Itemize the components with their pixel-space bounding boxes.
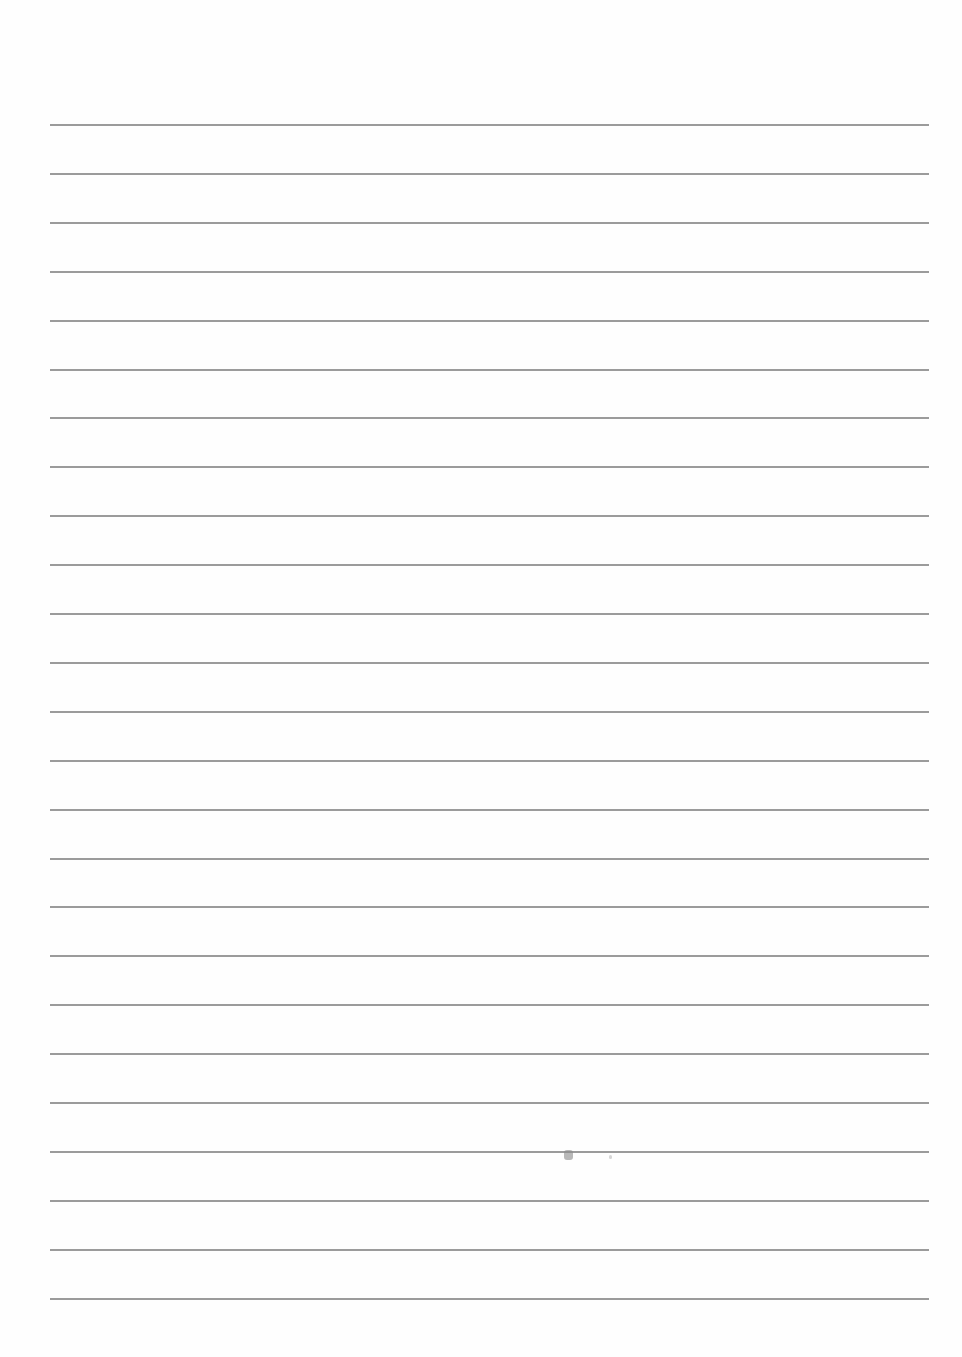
ruled-line bbox=[50, 809, 929, 811]
ruled-line bbox=[50, 417, 929, 419]
ruled-line bbox=[50, 760, 929, 762]
ruled-line bbox=[50, 906, 929, 908]
ruled-line bbox=[50, 173, 929, 175]
ruled-line bbox=[50, 1004, 929, 1006]
ruled-line bbox=[50, 1200, 929, 1202]
ruled-line bbox=[50, 662, 929, 664]
ruled-line bbox=[50, 1151, 929, 1153]
ruled-paper-page bbox=[0, 0, 962, 1357]
ruled-line bbox=[50, 955, 929, 957]
ruled-line bbox=[50, 1298, 929, 1300]
ruled-line bbox=[50, 1249, 929, 1251]
ruled-line bbox=[50, 1053, 929, 1055]
ruled-line bbox=[50, 1102, 929, 1104]
ruled-line bbox=[50, 222, 929, 224]
ruled-line bbox=[50, 320, 929, 322]
ruled-line bbox=[50, 369, 929, 371]
ruled-line bbox=[50, 711, 929, 713]
ruled-line bbox=[50, 124, 929, 126]
ruled-line bbox=[50, 858, 929, 860]
ruled-line bbox=[50, 271, 929, 273]
ruled-line bbox=[50, 466, 929, 468]
ruled-line bbox=[50, 613, 929, 615]
ruled-line bbox=[50, 515, 929, 517]
paper-speck bbox=[609, 1155, 612, 1159]
ruled-line bbox=[50, 564, 929, 566]
